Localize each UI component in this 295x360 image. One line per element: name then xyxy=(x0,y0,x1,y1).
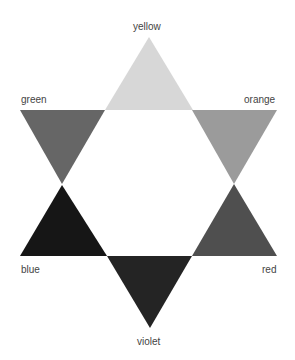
green-triangle xyxy=(20,110,105,184)
label-violet: violet xyxy=(137,336,160,348)
label-blue: blue xyxy=(21,264,40,276)
red-triangle xyxy=(192,184,277,256)
orange-triangle xyxy=(192,110,277,184)
label-orange: orange xyxy=(244,94,275,106)
yellow-triangle xyxy=(105,37,193,110)
violet-triangle xyxy=(107,256,192,328)
label-yellow: yellow xyxy=(133,21,161,33)
color-star-diagram xyxy=(0,0,295,360)
blue-triangle xyxy=(20,185,107,256)
label-green: green xyxy=(21,94,47,106)
label-red: red xyxy=(262,264,276,276)
